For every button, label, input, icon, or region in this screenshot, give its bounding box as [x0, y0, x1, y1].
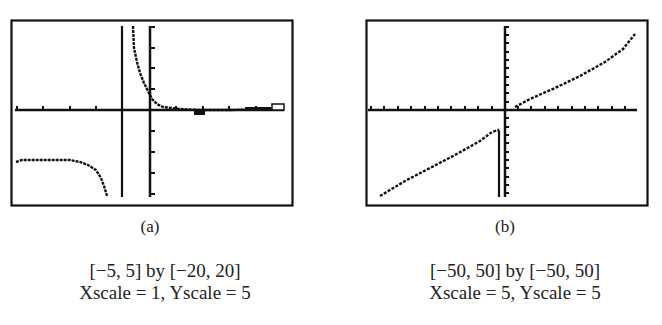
caption-a-scale: Xscale = 1, Yscale = 5	[0, 282, 330, 304]
caption-b-scale: Xscale = 5, Yscale = 5	[350, 282, 662, 304]
caption-a-window: [−5, 5] by [−20, 20]	[0, 260, 330, 282]
panel-label-b: (b)	[355, 217, 655, 237]
graph-panel-a: (a)	[0, 0, 310, 220]
graph-screen-a	[0, 0, 310, 220]
caption-a: [−5, 5] by [−20, 20] Xscale = 1, Yscale …	[0, 260, 330, 304]
caption-b-window: [−50, 50] by [−50, 50]	[350, 260, 662, 282]
panel-label-a: (a)	[0, 217, 300, 237]
caption-b: [−50, 50] by [−50, 50] Xscale = 5, Yscal…	[350, 260, 662, 304]
graph-panel-b: (b)	[355, 0, 662, 220]
graph-screen-b	[355, 0, 662, 220]
